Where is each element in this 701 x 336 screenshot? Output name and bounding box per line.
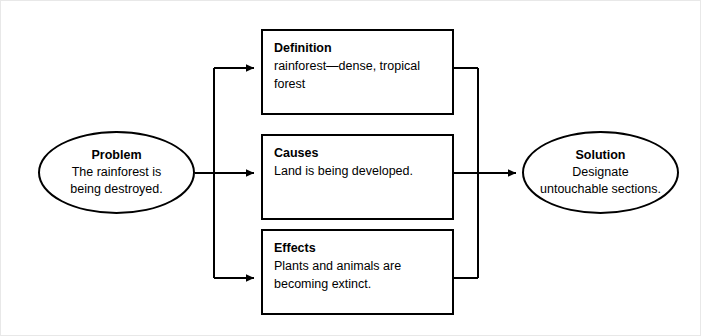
node-solution[interactable]: Solution Designate untouchable sections. [522,131,679,214]
node-problem-title: Problem [91,147,141,164]
node-definition-title: Definition [274,40,452,58]
node-effects-title: Effects [274,240,452,258]
node-solution-body: Designate untouchable sections. [540,164,661,198]
node-causes-body: Land is being developed. [274,163,446,181]
node-causes-title: Causes [274,145,452,163]
node-problem-body: The rainforest is being destroyed. [56,164,177,198]
node-effects-body: Plants and animals are becoming extinct. [274,258,446,294]
node-problem[interactable]: Problem The rainforest is being destroye… [38,131,195,214]
diagram-canvas: Problem The rainforest is being destroye… [0,0,701,336]
node-effects[interactable]: Effects Plants and animals are becoming … [261,229,454,315]
node-causes[interactable]: Causes Land is being developed. [261,134,454,220]
node-definition-body: rainforest—dense, tropical forest [274,58,446,94]
node-solution-title: Solution [576,147,626,164]
node-definition[interactable]: Definition rainforest—dense, tropical fo… [261,29,454,115]
